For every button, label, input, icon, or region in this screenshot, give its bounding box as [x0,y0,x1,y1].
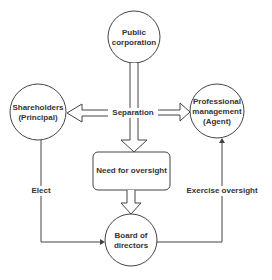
oversight-down-arrow [121,190,141,214]
shareholders-label: Shareholders (Principal) [10,103,66,123]
exercise-oversight-edge-label: Exercise oversight [186,186,258,196]
professional-management-label: Professional management (Agent) [190,97,244,127]
separation-edge-label: Separation [108,108,158,118]
elect-edge-label: Elect [29,186,53,196]
board-of-directors-label: Board of directors [105,231,157,251]
public-corporation-label: Public corporation [108,28,160,48]
need-for-oversight-label: Need for oversight [93,166,170,176]
exercise-oversight-arrowhead [219,138,225,143]
